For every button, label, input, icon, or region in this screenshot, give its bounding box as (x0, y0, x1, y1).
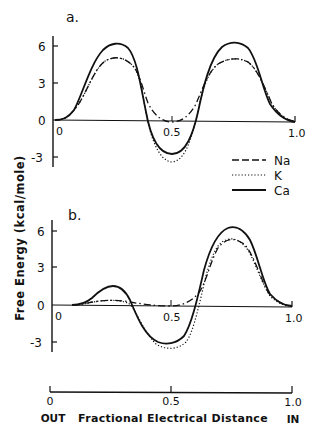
panel-b-label: b. (68, 207, 81, 223)
free-energy-figure: a. 6 3 0 -3 0 0.5 1.0 Na K Ca Fr (0, 0, 320, 435)
panel-a-ytick-0: 0 (38, 114, 46, 128)
panel-a-ytick-3: 3 (38, 77, 46, 91)
bottom-axis-line (50, 392, 292, 393)
panel-b-ytick-6: 6 (37, 225, 45, 239)
panel-a-xtick-05: 0.5 (163, 126, 181, 139)
bottom-tick-05: 0.5 (162, 395, 180, 408)
panel-b-zero-line (52, 305, 292, 307)
bottom-tick-0: 0 (47, 395, 54, 408)
panel-a-xtick-0: 0 (56, 125, 63, 138)
panel-b-ytick-3: 3 (37, 261, 45, 275)
legend-na-label: Na (274, 154, 290, 168)
bottom-axis-title: Fractional Electrical Distance (78, 412, 268, 425)
bottom-axis: 0 0.5 1.0 OUT Fractional Electrical Dist… (41, 386, 302, 425)
panel-a-label: a. (66, 9, 79, 25)
panel-b-series-ca (72, 227, 292, 343)
panel-b: b. 6 3 0 -3 0 0.5 1.0 (30, 207, 303, 352)
panel-b-xtick-05: 0.5 (163, 311, 181, 324)
bottom-tick-10: 1.0 (284, 396, 302, 409)
panel-b-series-na (72, 239, 292, 306)
bottom-label-out: OUT (41, 412, 66, 424)
bottom-label-in: IN (287, 413, 300, 425)
panel-b-xtick-10: 1.0 (285, 312, 303, 325)
legend-ca-label: Ca (274, 184, 290, 198)
panel-a-series-na (55, 58, 295, 122)
panel-a: a. 6 3 0 -3 0 0.5 1.0 Na K Ca (31, 9, 306, 198)
panel-b-series-k (72, 239, 292, 348)
panel-b-xtick-0: 0 (55, 310, 62, 323)
panel-a-ytick-neg3: -3 (31, 151, 43, 165)
legend-k-label: K (274, 169, 283, 183)
panel-a-zero-line (53, 120, 295, 122)
panel-b-ytick-0: 0 (37, 299, 45, 313)
panel-b-ytick-neg3: -3 (30, 336, 42, 350)
legend: Na K Ca (232, 154, 290, 198)
y-axis-title: Free Energy (kcal/mole) (13, 155, 27, 321)
panel-a-ytick-6: 6 (38, 40, 46, 54)
panel-a-xtick-10: 1.0 (288, 127, 306, 140)
